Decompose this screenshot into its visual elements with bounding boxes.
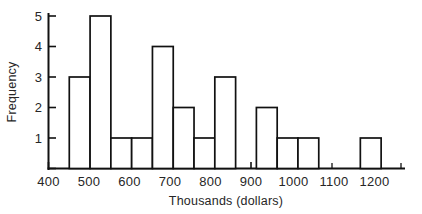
histogram-bar <box>173 108 194 169</box>
y-tick-label-2: 2 <box>35 100 42 115</box>
x-tick-label-700: 700 <box>159 174 182 189</box>
y-tick-label-1: 1 <box>35 131 42 146</box>
y-axis-title: Frequency <box>5 61 19 122</box>
histogram-bars <box>69 16 381 169</box>
x-tick-label-1100: 1100 <box>319 174 348 189</box>
histogram-bar <box>69 77 90 169</box>
histogram-plot-area: 1 2 3 4 5 400 500 600 700 800 900 1000 <box>0 0 422 214</box>
x-axis-title: Thousands (dollars) <box>169 194 283 208</box>
histogram-bar <box>277 138 298 169</box>
histogram-bar <box>256 108 277 169</box>
histogram-figure: 1 2 3 4 5 400 500 600 700 800 900 1000 <box>0 0 422 214</box>
x-axis-tick-labels: 400 500 600 700 800 900 1000 1100 1200 <box>37 174 389 189</box>
y-tick-label-4: 4 <box>35 39 42 54</box>
x-tick-label-1000: 1000 <box>278 174 308 189</box>
y-axis-ticks <box>49 16 57 169</box>
histogram-bar <box>90 16 111 169</box>
x-tick-label-1200: 1200 <box>359 174 389 189</box>
x-tick-label-900: 900 <box>240 174 263 189</box>
x-tick-label-600: 600 <box>118 174 141 189</box>
histogram-bar <box>215 77 236 169</box>
x-tick-label-800: 800 <box>199 174 222 189</box>
y-axis-tick-labels: 1 2 3 4 5 <box>35 9 42 146</box>
y-tick-label-5: 5 <box>35 9 42 24</box>
histogram-bar <box>298 138 319 169</box>
histogram-bar <box>132 138 153 169</box>
histogram-bar <box>111 138 132 169</box>
x-tick-label-500: 500 <box>78 174 101 189</box>
x-tick-label-400: 400 <box>37 174 60 189</box>
histogram-bar <box>194 138 215 169</box>
histogram-bar <box>152 47 173 169</box>
histogram-bar <box>360 138 381 169</box>
y-tick-label-3: 3 <box>35 70 42 85</box>
